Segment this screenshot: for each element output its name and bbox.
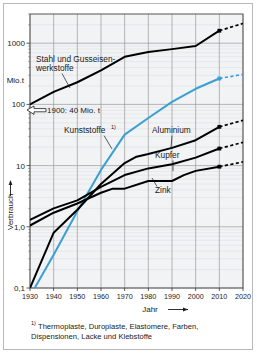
series-label-copper: Kupfer xyxy=(155,150,180,160)
series-label-plastics: Kunststoffe xyxy=(64,125,106,135)
x-tick-label: 1980 xyxy=(140,292,156,301)
series-label-steel-line2: werkstoffe xyxy=(35,63,74,73)
consumption-log-chart: 0,11,01010010001930194019501960197019801… xyxy=(0,0,257,357)
x-axis-title: Jahr xyxy=(142,305,158,314)
y-axis-title: Verbrauch xyxy=(6,194,15,230)
annotation-1900-label: 1900: 40 Mio. t xyxy=(47,106,101,115)
footnote-marker: 1) xyxy=(31,320,36,326)
x-tick-label: 1960 xyxy=(93,292,109,301)
series-label-plastics-footnote-marker: 1) xyxy=(111,124,116,130)
chart-figure: 0,11,01010010001930194019501960197019801… xyxy=(0,0,257,357)
x-tick-label: 2000 xyxy=(188,292,204,301)
x-tick-label: 2020 xyxy=(235,292,251,301)
y-axis-arrow-head xyxy=(9,180,13,185)
y-tick-label: 1000 xyxy=(7,39,25,48)
y-unit-label: Mio.t xyxy=(7,76,25,85)
series-label-aluminium: Aluminium xyxy=(152,125,191,135)
x-axis-arrow-head xyxy=(183,308,188,312)
footnote-line-1: Thermoplaste, Duroplaste, Elastomere, Fa… xyxy=(38,322,198,331)
x-tick-label: 1940 xyxy=(46,292,62,301)
y-tick-label: 100 xyxy=(12,100,26,109)
x-tick-label: 1930 xyxy=(22,292,38,301)
x-tick-label: 2010 xyxy=(211,292,227,301)
x-tick-label: 1990 xyxy=(164,292,180,301)
series-label-zinc: Zink xyxy=(155,185,172,195)
y-tick-label: 1,0 xyxy=(14,223,26,232)
footnote-line-2: Dispensionen, Lacke und Klebstoffe xyxy=(31,332,152,341)
x-tick-label: 1970 xyxy=(117,292,133,301)
y-tick-label: 10 xyxy=(16,162,25,171)
x-tick-label: 1950 xyxy=(69,292,85,301)
